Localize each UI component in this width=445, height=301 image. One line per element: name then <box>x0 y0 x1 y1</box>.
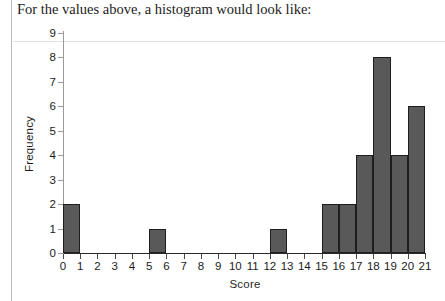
x-axis-tick <box>115 254 116 259</box>
histogram-bar <box>408 106 425 253</box>
x-axis-tick <box>425 254 426 259</box>
x-axis-title: Score <box>183 278 307 290</box>
x-axis-tick <box>304 254 305 259</box>
x-axis-tick <box>132 254 133 259</box>
x-axis-tick <box>80 254 81 259</box>
x-axis-tick <box>270 254 271 259</box>
x-axis-tick <box>408 254 409 259</box>
y-axis-label: 5 <box>16 125 56 137</box>
histogram-bar <box>391 155 408 253</box>
y-axis-label: 0 <box>16 247 56 259</box>
x-axis-tick <box>391 254 392 259</box>
x-axis-line <box>63 253 426 254</box>
y-axis-label: 1 <box>16 223 56 235</box>
y-axis-label: 8 <box>16 51 56 63</box>
x-axis-tick <box>184 254 185 259</box>
y-axis-label: 4 <box>16 149 56 161</box>
histogram-bar <box>63 204 80 253</box>
x-axis-tick <box>322 254 323 259</box>
x-axis-tick <box>97 254 98 259</box>
histogram-bar <box>322 204 339 253</box>
histogram-bar <box>149 229 166 253</box>
x-axis-tick <box>253 254 254 259</box>
x-axis-tick <box>63 254 64 259</box>
y-axis-label: 3 <box>16 174 56 186</box>
x-axis-tick <box>149 254 150 259</box>
x-axis-tick <box>373 254 374 259</box>
y-axis-label: 9 <box>16 27 56 39</box>
x-axis-label: 21 <box>414 260 436 272</box>
x-axis-tick <box>218 254 219 259</box>
histogram-bar <box>356 155 373 253</box>
y-axis-label: 6 <box>16 100 56 112</box>
histogram-bar <box>339 204 356 253</box>
x-axis-tick <box>339 254 340 259</box>
x-axis-tick <box>287 254 288 259</box>
page-heading: For the values above, a histogram would … <box>17 0 311 19</box>
x-axis-tick <box>166 254 167 259</box>
histogram-chart: Frequency Score 0123456789 0123456789101… <box>0 20 445 301</box>
histogram-bar <box>270 229 287 253</box>
x-axis-tick <box>356 254 357 259</box>
x-axis-tick <box>201 254 202 259</box>
y-axis-label: 7 <box>16 76 56 88</box>
x-axis-tick <box>235 254 236 259</box>
y-axis-label: 2 <box>16 198 56 210</box>
histogram-bar <box>373 57 390 253</box>
